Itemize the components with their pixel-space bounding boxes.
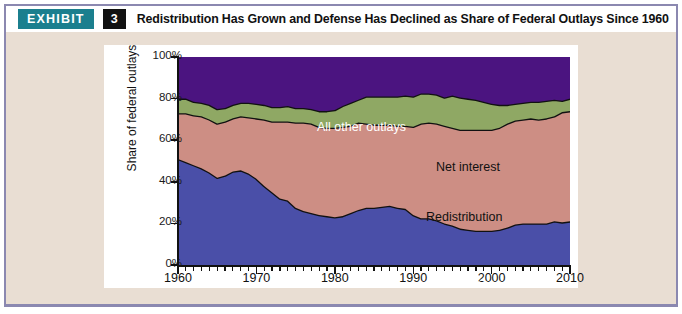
x-tick-minor xyxy=(209,266,210,271)
y-tick-label: 20% xyxy=(122,215,182,227)
y-axis-line xyxy=(177,56,179,266)
exhibit-badge: EXHIBIT xyxy=(18,9,94,29)
exhibit-title: Redistribution Has Grown and Defense Has… xyxy=(137,12,669,26)
series-label-net-interest: Net interest xyxy=(436,160,500,174)
y-tick-label: 80% xyxy=(122,91,182,103)
y-tick-mark xyxy=(171,98,178,100)
series-label-redistribution: Redistribution xyxy=(426,210,502,224)
x-tick-minor xyxy=(452,266,453,271)
x-tick-minor xyxy=(522,266,523,271)
series-label-all-other-outlays: All other outlays xyxy=(317,120,406,134)
x-tick-label: 1980 xyxy=(305,271,365,285)
x-tick-minor xyxy=(295,266,296,271)
exhibit-number-badge: 3 xyxy=(103,9,126,29)
stacked-area-plot xyxy=(178,57,570,265)
x-tick-minor xyxy=(287,266,288,271)
source-divider xyxy=(4,306,678,307)
y-tick-label: 100% xyxy=(122,49,182,61)
chart-panel: Share of federal outlays 0%20%40%60%80%1… xyxy=(104,45,578,288)
exhibit-header: EXHIBIT 3 Redistribution Has Grown and D… xyxy=(6,6,676,32)
y-tick-mark xyxy=(171,181,178,183)
x-tick-minor xyxy=(373,266,374,271)
exhibit-figure: EXHIBIT 3 Redistribution Has Grown and D… xyxy=(0,0,682,314)
figure-border-right xyxy=(676,4,678,306)
x-tick-minor xyxy=(217,266,218,271)
y-tick-mark xyxy=(171,223,178,225)
source-note xyxy=(120,308,676,314)
y-tick-label: 40% xyxy=(122,174,182,186)
x-tick-label: 1990 xyxy=(383,271,443,285)
x-tick-minor xyxy=(366,266,367,271)
plot-svg xyxy=(178,57,570,265)
x-tick-label: 1970 xyxy=(226,271,286,285)
y-tick-mark xyxy=(171,139,178,141)
series-label-defense: Defense xyxy=(442,277,489,291)
x-tick-minor xyxy=(530,266,531,271)
y-tick-mark xyxy=(171,56,178,58)
y-tick-label: 60% xyxy=(122,132,182,144)
x-tick-label: 1960 xyxy=(148,271,208,285)
x-tick-minor xyxy=(444,266,445,271)
x-tick-label: 2010 xyxy=(540,271,600,285)
y-tick-label: 0% xyxy=(122,257,182,269)
